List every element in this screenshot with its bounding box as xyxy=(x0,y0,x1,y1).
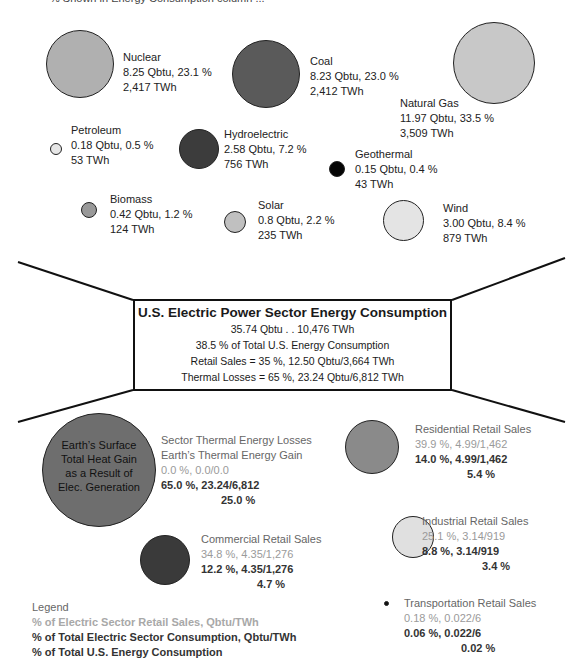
solar-circle xyxy=(224,211,246,233)
commercial-label: Commercial Retail Sales 34.8 %, 4.35/1,2… xyxy=(201,532,321,592)
output-title: Commercial Retail Sales xyxy=(201,532,321,547)
source-twh: 756 TWh xyxy=(224,157,307,172)
source-twh: 879 TWh xyxy=(443,231,526,246)
legend: Legend % of Electric Sector Retail Sales… xyxy=(32,600,296,658)
source-name: Nuclear xyxy=(123,50,212,65)
source-name: Coal xyxy=(310,54,399,69)
legend-item-sector: % of Total Electric Sector Consumption, … xyxy=(32,630,296,645)
biomass-label: Biomass 0.42 Qbtu, 1.2 % 124 TWh xyxy=(110,192,193,237)
output-total-pct: 3.4 % xyxy=(422,559,528,574)
transportation-label: Transportation Retail Sales 0.18 %, 0.02… xyxy=(404,596,536,656)
sector-share: 38.5 % of Total U.S. Energy Consumption xyxy=(135,337,450,353)
wind-circle xyxy=(383,200,424,241)
petroleum-label: Petroleum 0.18 Qbtu, 0.5 % 53 TWh xyxy=(71,123,154,168)
earth-text-line: Elec. Generation xyxy=(54,480,144,494)
source-qbtu: 0.15 Qbtu, 0.4 % xyxy=(355,162,438,177)
geothermal-label: Geothermal 0.15 Qbtu, 0.4 % 43 TWh xyxy=(355,147,438,192)
source-name: Petroleum xyxy=(71,123,154,138)
nuclear-circle xyxy=(46,30,114,98)
sector-title: U.S. Electric Power Sector Energy Consum… xyxy=(135,304,450,321)
source-twh: 53 TWh xyxy=(71,153,154,168)
legend-item-retail: % of Electric Sector Retail Sales, Qbtu/… xyxy=(32,615,296,630)
petroleum-circle xyxy=(50,143,62,155)
source-twh: 235 TWh xyxy=(258,228,334,243)
sector-total: 35.74 Qbtu . . 10,476 TWh xyxy=(135,321,450,337)
source-name: Hydroelectric xyxy=(224,127,307,142)
sector-retail-sales: Retail Sales = 35 %, 12.50 Qbtu/3,664 TW… xyxy=(135,353,450,369)
earth-heat-circle-text: Earth’s Surface Total Heat Gain as a Res… xyxy=(54,438,144,494)
output-total-pct: 25.0 % xyxy=(161,493,312,508)
earth-heat-label: Sector Thermal Energy Losses Earth’s The… xyxy=(161,433,312,508)
output-retail-pct: 0.18 %, 0.022/6 xyxy=(404,611,536,626)
residential-circle xyxy=(345,420,399,474)
source-qbtu: 8.23 Qbtu, 23.0 % xyxy=(310,69,399,84)
source-qbtu: 2.58 Qbtu, 7.2 % xyxy=(224,142,307,157)
earth-text-line: Total Heat Gain xyxy=(54,452,144,466)
hydroelectric-circle xyxy=(179,129,219,169)
source-twh: 3,509 TWh xyxy=(400,126,494,141)
wind-label: Wind 3.00 Qbtu, 8.4 % 879 TWh xyxy=(443,201,526,246)
source-name: Biomass xyxy=(110,192,193,207)
output-sector-pct: 65.0 %, 23.24/6,812 xyxy=(161,478,312,493)
earth-text-line: Earth’s Surface xyxy=(54,438,144,452)
output-retail-pct: 25.1 %, 3.14/919 xyxy=(422,529,528,544)
sector-summary-box: U.S. Electric Power Sector Energy Consum… xyxy=(133,299,452,391)
source-qbtu: 8.25 Qbtu, 23.1 % xyxy=(123,65,212,80)
source-twh: 2,417 TWh xyxy=(123,80,212,95)
commercial-circle xyxy=(140,535,190,585)
source-twh: 124 TWh xyxy=(110,222,193,237)
natural-gas-label: Natural Gas 11.97 Qbtu, 33.5 % 3,509 TWh xyxy=(400,96,494,141)
output-total-pct: 5.4 % xyxy=(415,467,531,482)
output-total-pct: 4.7 % xyxy=(201,577,321,592)
source-qbtu: 0.18 Qbtu, 0.5 % xyxy=(71,138,154,153)
legend-title: Legend xyxy=(32,600,296,615)
output-title: Residential Retail Sales xyxy=(415,422,531,437)
biomass-circle xyxy=(81,202,97,218)
output-title: Industrial Retail Sales xyxy=(422,514,528,529)
output-title: Transportation Retail Sales xyxy=(404,596,536,611)
source-name: Geothermal xyxy=(355,147,438,162)
solar-label: Solar 0.8 Qbtu, 2.2 % 235 TWh xyxy=(258,198,334,243)
legend-item-total: % of Total U.S. Energy Consumption xyxy=(32,645,296,658)
source-name: Wind xyxy=(443,201,526,216)
output-total-pct: 0.02 % xyxy=(404,641,536,656)
output-title: Sector Thermal Energy Losses xyxy=(161,433,312,448)
source-qbtu: 3.00 Qbtu, 8.4 % xyxy=(443,216,526,231)
natural-gas-circle xyxy=(453,22,535,104)
source-qbtu: 0.42 Qbtu, 1.2 % xyxy=(110,207,193,222)
source-name: Natural Gas xyxy=(400,96,494,111)
output-retail-pct: 34.8 %, 4.35/1,276 xyxy=(201,547,321,562)
source-name: Solar xyxy=(258,198,334,213)
sector-thermal-losses: Thermal Losses = 65 %, 23.24 Qbtu/6,812 … xyxy=(135,369,450,385)
earth-text-line: as a Result of xyxy=(54,466,144,480)
coal-circle xyxy=(232,40,300,108)
hydroelectric-label: Hydroelectric 2.58 Qbtu, 7.2 % 756 TWh xyxy=(224,127,307,172)
transportation-circle xyxy=(384,601,389,606)
source-twh: 2,412 TWh xyxy=(310,84,399,99)
output-retail-pct: 39.9 %, 4.99/1,462 xyxy=(415,437,531,452)
output-sector-pct: 8.8 %, 3.14/919 xyxy=(422,544,528,559)
nuclear-label: Nuclear 8.25 Qbtu, 23.1 % 2,417 TWh xyxy=(123,50,212,95)
output-retail-pct: 0.0 %, 0.0/0.0 xyxy=(161,463,312,478)
source-twh: 43 TWh xyxy=(355,177,438,192)
source-qbtu: 0.8 Qbtu, 2.2 % xyxy=(258,213,334,228)
geothermal-circle xyxy=(329,161,345,177)
output-subtitle: Earth’s Thermal Energy Gain xyxy=(161,448,312,463)
output-sector-pct: 14.0 %, 4.99/1,462 xyxy=(415,452,531,467)
industrial-label: Industrial Retail Sales 25.1 %, 3.14/919… xyxy=(422,514,528,574)
output-sector-pct: 0.06 %, 0.022/6 xyxy=(404,626,536,641)
output-sector-pct: 12.2 %, 4.35/1,276 xyxy=(201,562,321,577)
coal-label: Coal 8.23 Qbtu, 23.0 % 2,412 TWh xyxy=(310,54,399,99)
residential-label: Residential Retail Sales 39.9 %, 4.99/1,… xyxy=(415,422,531,482)
source-qbtu: 11.97 Qbtu, 33.5 % xyxy=(400,111,494,126)
